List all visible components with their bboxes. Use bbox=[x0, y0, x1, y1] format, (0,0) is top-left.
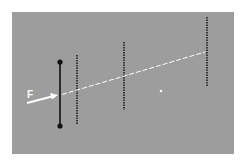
top-endpoint-dot bbox=[57, 59, 62, 64]
dashed-ray bbox=[62, 52, 205, 95]
white-dot bbox=[160, 90, 163, 93]
label-f: F bbox=[27, 89, 33, 100]
diagram-canvas bbox=[0, 0, 245, 162]
solid-rod bbox=[57, 59, 62, 128]
bottom-endpoint-dot bbox=[57, 123, 62, 128]
